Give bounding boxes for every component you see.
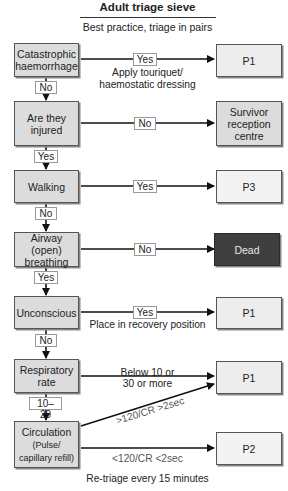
connector-label-no: No — [35, 207, 57, 220]
outcome-p2: P2 — [216, 432, 282, 465]
step-label: (Pulse/ — [32, 440, 60, 450]
connector-label-yes: Yes — [133, 306, 157, 319]
step-label: rate — [37, 376, 55, 388]
connector-label-yes: Yes — [133, 53, 157, 66]
outcome-label: Dead — [234, 244, 259, 256]
step-respiratory-rate: Respiratoryrate — [14, 359, 79, 393]
step-catastrophic-haemorrhage: Catastrophichaemorrhage — [14, 43, 79, 77]
connector-label-no: No — [35, 81, 57, 94]
respiratory-criteria-line1: Below 10 or — [85, 367, 210, 378]
step-label: capillary refill) — [19, 453, 74, 463]
connector-label-no: No — [134, 117, 156, 130]
step-label: Unconscious — [16, 307, 76, 319]
step-walking: Walking — [14, 170, 79, 203]
step-circulation: Circulation(Pulse/capillary refill) — [14, 421, 79, 468]
outcome-p1-haemorrhage: P1 — [216, 44, 282, 77]
connector-label-yes: Yes — [34, 271, 58, 284]
step-airway-breathing: Airway (open)breathing — [14, 232, 79, 267]
unconscious-action: Place in recovery position — [80, 319, 215, 330]
circulation-p2-criteria: <120/CR <2sec — [90, 453, 205, 464]
connector-label-no: No — [134, 243, 156, 256]
connector-label-yes: Yes — [34, 150, 58, 163]
connector-label-10-29: 10–29 — [29, 397, 62, 410]
outcome-p3: P3 — [216, 170, 282, 203]
respiratory-criteria-line2: 30 or more — [85, 378, 210, 389]
step-label: Walking — [28, 181, 65, 193]
outcome-p1-respiratory: P1 — [216, 361, 282, 394]
outcome-label: P2 — [243, 443, 256, 455]
outcome-label: P1 — [243, 55, 256, 67]
outcome-label: P1 — [243, 372, 256, 384]
step-unconscious: Unconscious — [14, 296, 79, 329]
outcome-dead: Dead — [214, 233, 280, 266]
outcome-label: Survivor — [230, 106, 269, 118]
outcome-p1-unconscious: P1 — [216, 297, 282, 329]
step-label: haemorrhage — [15, 60, 77, 72]
haemorrhage-action-line1: Apply touriquet/ — [85, 67, 210, 78]
step-label: Respiratory — [20, 364, 74, 376]
haemorrhage-action-line2: haemostatic dressing — [85, 79, 210, 90]
outcome-label: centre — [234, 130, 263, 142]
step-label: Circulation — [22, 426, 72, 438]
step-label: Are they — [27, 112, 66, 124]
outcome-survivor-reception-centre: Survivorreceptioncentre — [216, 101, 282, 146]
step-label: Airway (open) — [31, 232, 63, 256]
step-label: injured — [31, 124, 63, 136]
step-are-they-injured: Are theyinjured — [14, 101, 79, 146]
outcome-label: P1 — [243, 307, 256, 319]
connector-label-yes: Yes — [133, 180, 157, 193]
footer-retriage-note: Re-triage every 15 minutes — [75, 473, 220, 484]
outcome-label: P3 — [243, 181, 256, 193]
outcome-label: reception — [227, 118, 270, 130]
connector-label-no: No — [35, 334, 57, 347]
step-label: Catastrophic — [17, 48, 76, 60]
step-label: breathing — [25, 256, 69, 268]
